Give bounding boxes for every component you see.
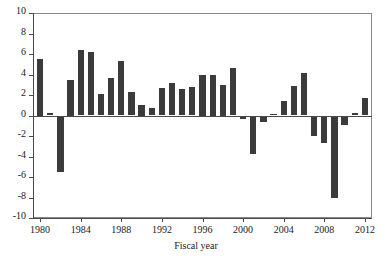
bar — [362, 98, 368, 115]
y-tick-label: -2 — [18, 128, 26, 139]
bar — [118, 61, 124, 115]
y-tick-label: 8 — [21, 26, 26, 37]
bar — [341, 116, 347, 125]
x-tick-mark — [284, 218, 285, 222]
y-tick-label: -8 — [18, 190, 26, 201]
x-tick-label: 1996 — [193, 224, 213, 236]
x-axis-title: Fiscal year — [0, 240, 392, 252]
x-tick-mark — [40, 218, 41, 222]
bar — [108, 78, 114, 116]
y-tick-label: -4 — [18, 149, 26, 160]
bar — [138, 105, 144, 115]
x-tick-mark — [81, 218, 82, 222]
y-tick-label: -6 — [18, 169, 26, 180]
x-tick-label: 1988 — [111, 224, 131, 236]
y-tick-label: 2 — [21, 87, 26, 98]
bar — [281, 101, 287, 115]
x-tick-mark — [243, 218, 244, 222]
x-tick-mark — [121, 218, 122, 222]
bar — [220, 85, 226, 116]
bar — [301, 73, 307, 115]
bar — [149, 108, 155, 115]
bar — [88, 52, 94, 116]
y-tick-label: 0 — [21, 108, 26, 119]
bar — [311, 116, 317, 137]
x-tick-mark — [324, 218, 325, 222]
bar — [37, 59, 43, 115]
bar — [331, 116, 337, 198]
bar — [321, 116, 327, 144]
bar — [78, 50, 84, 116]
x-tick-label: 2008 — [314, 224, 334, 236]
bar — [98, 94, 104, 116]
bar — [189, 87, 195, 116]
bar — [179, 89, 185, 116]
y-tick-label: 4 — [21, 67, 26, 78]
bar — [128, 92, 134, 116]
bar — [230, 68, 236, 115]
x-tick-label: 2000 — [233, 224, 253, 236]
bar — [159, 88, 165, 116]
bar-chart: -10-8-6-4-20246810 198019841988199219962… — [0, 0, 392, 263]
zero-baseline — [33, 116, 372, 117]
bar — [199, 75, 205, 116]
bar — [57, 116, 63, 172]
x-tick-mark — [365, 218, 366, 222]
x-tick-mark — [203, 218, 204, 222]
bar — [67, 80, 73, 116]
x-tick-label: 1980 — [30, 224, 50, 236]
bar — [210, 75, 216, 116]
bar — [250, 116, 256, 155]
y-tick-label: 6 — [21, 46, 26, 57]
bar — [291, 86, 297, 116]
x-tick-mark — [162, 218, 163, 222]
x-tick-label: 1992 — [152, 224, 172, 236]
x-tick-label: 2004 — [274, 224, 294, 236]
bar — [169, 83, 175, 116]
x-tick-label: 1984 — [71, 224, 91, 236]
x-tick-label: 2012 — [355, 224, 375, 236]
y-tick-label: 10 — [16, 5, 26, 16]
y-tick-label: -10 — [13, 210, 26, 221]
